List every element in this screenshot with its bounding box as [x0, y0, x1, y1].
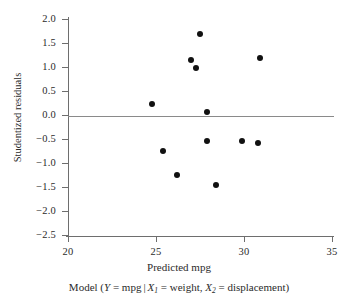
caption-model-open: Model ( — [69, 281, 104, 293]
caption-eq3: = displacement) — [216, 281, 289, 293]
x-axis-line — [66, 236, 334, 237]
figure-caption: Model (Y = mpg|X1 = weight, X2 = displac… — [0, 281, 358, 297]
data-point — [213, 182, 219, 188]
caption-eq1: = mpg — [110, 281, 141, 293]
y-tick-label: −2.0 — [12, 206, 56, 217]
x-tick-label: 25 — [136, 246, 176, 257]
x-axis-title: Predicted mpg — [0, 261, 358, 273]
data-point — [188, 57, 194, 63]
x-tick-mark — [332, 236, 333, 242]
y-tick-label: −2.5 — [12, 230, 56, 241]
plot-area — [68, 19, 332, 235]
x-tick-label: 20 — [48, 246, 88, 257]
y-tick-label: 2.0 — [12, 14, 56, 25]
caption-eq2: = weight, — [158, 281, 205, 293]
data-point — [160, 148, 166, 154]
x-tick-mark — [156, 236, 157, 242]
caption-x2-var: X — [205, 281, 212, 293]
x-tick-label: 30 — [224, 246, 264, 257]
data-point — [204, 138, 210, 144]
scatter-plot-figure: 2.01.51.00.50.0−0.5−1.0−1.5−2.0−2.5 2025… — [0, 0, 358, 305]
y-axis-title: Studentized residuals — [12, 38, 23, 198]
x-tick-mark — [244, 236, 245, 242]
x-tick-mark — [68, 236, 69, 242]
x-tick-label: 35 — [312, 246, 352, 257]
